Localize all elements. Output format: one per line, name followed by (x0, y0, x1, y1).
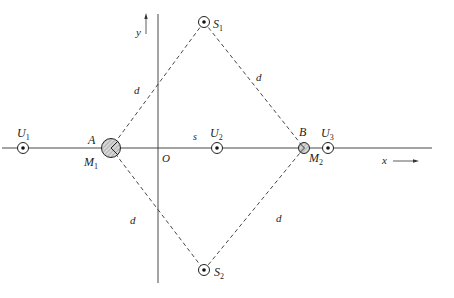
mirror-m1-label: M1 (83, 155, 98, 171)
source-s1-label: S1 (213, 17, 223, 33)
point-b-label: B (299, 125, 307, 139)
x-axis-label: x (381, 154, 387, 166)
y-axis-label: y (135, 26, 141, 38)
path-length-label-upper-left: d (134, 84, 140, 96)
receiver-u3-label: U3 (321, 126, 334, 142)
source-s2-label: S2 (214, 265, 224, 281)
mirror-m2-label: M2 (308, 151, 323, 167)
source-s2-icon (199, 265, 210, 276)
receiver-u1-icon (18, 143, 29, 154)
x-direction-arrow-icon (393, 159, 419, 162)
receiver-u2-label: U2 (210, 126, 223, 142)
receiver-u3-icon (323, 143, 334, 154)
path-length-label-lower-left: d (130, 214, 136, 226)
point-a-label: A (87, 133, 96, 147)
interferometer-diagram: y x O d d d d s S1 S2 U1 U2 (0, 0, 454, 298)
origin-label: O (162, 152, 170, 164)
path-length-label-upper-right: d (256, 71, 262, 83)
mirror-m2-icon (299, 143, 310, 154)
receiver-u2-icon (212, 143, 223, 154)
source-s1-icon (199, 17, 210, 28)
mirror-m1-icon (102, 139, 121, 158)
path-length-label-lower-right: d (276, 212, 282, 224)
y-direction-arrow-icon (144, 13, 147, 34)
light-paths (111, 22, 304, 270)
receiver-u1-label: U1 (17, 126, 30, 142)
separation-label: s (193, 131, 197, 142)
